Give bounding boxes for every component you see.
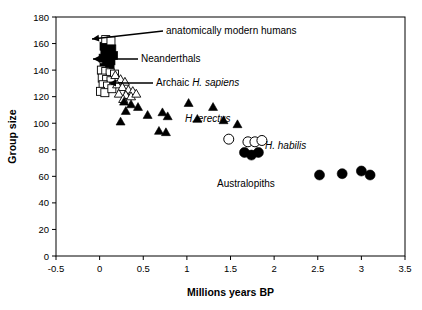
figure-container: 020406080100120140160180-0.500.511.522.5… xyxy=(0,0,422,310)
data-point-open-circle xyxy=(224,134,234,144)
annotation-arrow-head xyxy=(92,35,99,42)
data-point-filled-triangle xyxy=(116,117,125,125)
x-tick-label: 0 xyxy=(97,263,102,274)
y-tick-label: 40 xyxy=(38,197,49,208)
y-tick-label: 160 xyxy=(33,38,49,49)
y-tick-label: 60 xyxy=(38,171,49,182)
y-tick-label: 180 xyxy=(33,12,49,23)
y-tick-label: 80 xyxy=(38,144,49,155)
annotation-label: H. erectus xyxy=(185,113,231,124)
scatter-plot: 020406080100120140160180-0.500.511.522.5… xyxy=(0,0,422,310)
annotation-arrow-head xyxy=(93,56,100,63)
data-point-filled-triangle xyxy=(209,103,218,111)
annotation-label-plain: Archaic xyxy=(156,77,192,88)
y-tick-label: 140 xyxy=(33,65,49,76)
x-axis-title: Millions years BP xyxy=(187,286,274,298)
annotation-label: anatomically modern humans xyxy=(166,25,297,36)
x-tick-label: 3.5 xyxy=(398,263,411,274)
x-tick-label: 2.5 xyxy=(311,263,324,274)
annotation-label: Neanderthals xyxy=(141,53,200,64)
annotation-label: Australopiths xyxy=(217,178,275,189)
data-point-filled-triangle xyxy=(233,120,242,128)
y-axis-title: Group size xyxy=(6,109,18,163)
x-tick-label: 2 xyxy=(271,263,276,274)
x-tick-label: 1.5 xyxy=(224,263,237,274)
annotation-label: H. habilis xyxy=(265,140,306,151)
data-point-filled-triangle xyxy=(154,126,163,134)
data-point-filled-triangle xyxy=(143,111,152,119)
data-point-filled-circle xyxy=(337,169,347,179)
x-tick-label: 1 xyxy=(184,263,189,274)
data-point-filled-triangle xyxy=(161,128,170,136)
data-point-filled-circle xyxy=(253,147,263,157)
annotation-label-italic: H. sapiens xyxy=(192,77,239,88)
data-point-filled-triangle xyxy=(184,99,193,107)
x-tick-label: 3 xyxy=(359,263,364,274)
data-point-filled-circle xyxy=(365,170,375,180)
annotation-label: Archaic H. sapiens xyxy=(156,77,239,88)
x-tick-label: -0.5 xyxy=(48,263,64,274)
data-point-open-square xyxy=(107,37,115,45)
data-point-filled-triangle xyxy=(158,108,167,116)
y-tick-label: 0 xyxy=(44,251,49,262)
annotation-arrow-line xyxy=(92,31,163,39)
y-tick-label: 20 xyxy=(38,224,49,235)
x-tick-label: 0.5 xyxy=(137,263,150,274)
y-tick-label: 100 xyxy=(33,118,49,129)
data-point-filled-circle xyxy=(314,170,324,180)
y-tick-label: 120 xyxy=(33,91,49,102)
